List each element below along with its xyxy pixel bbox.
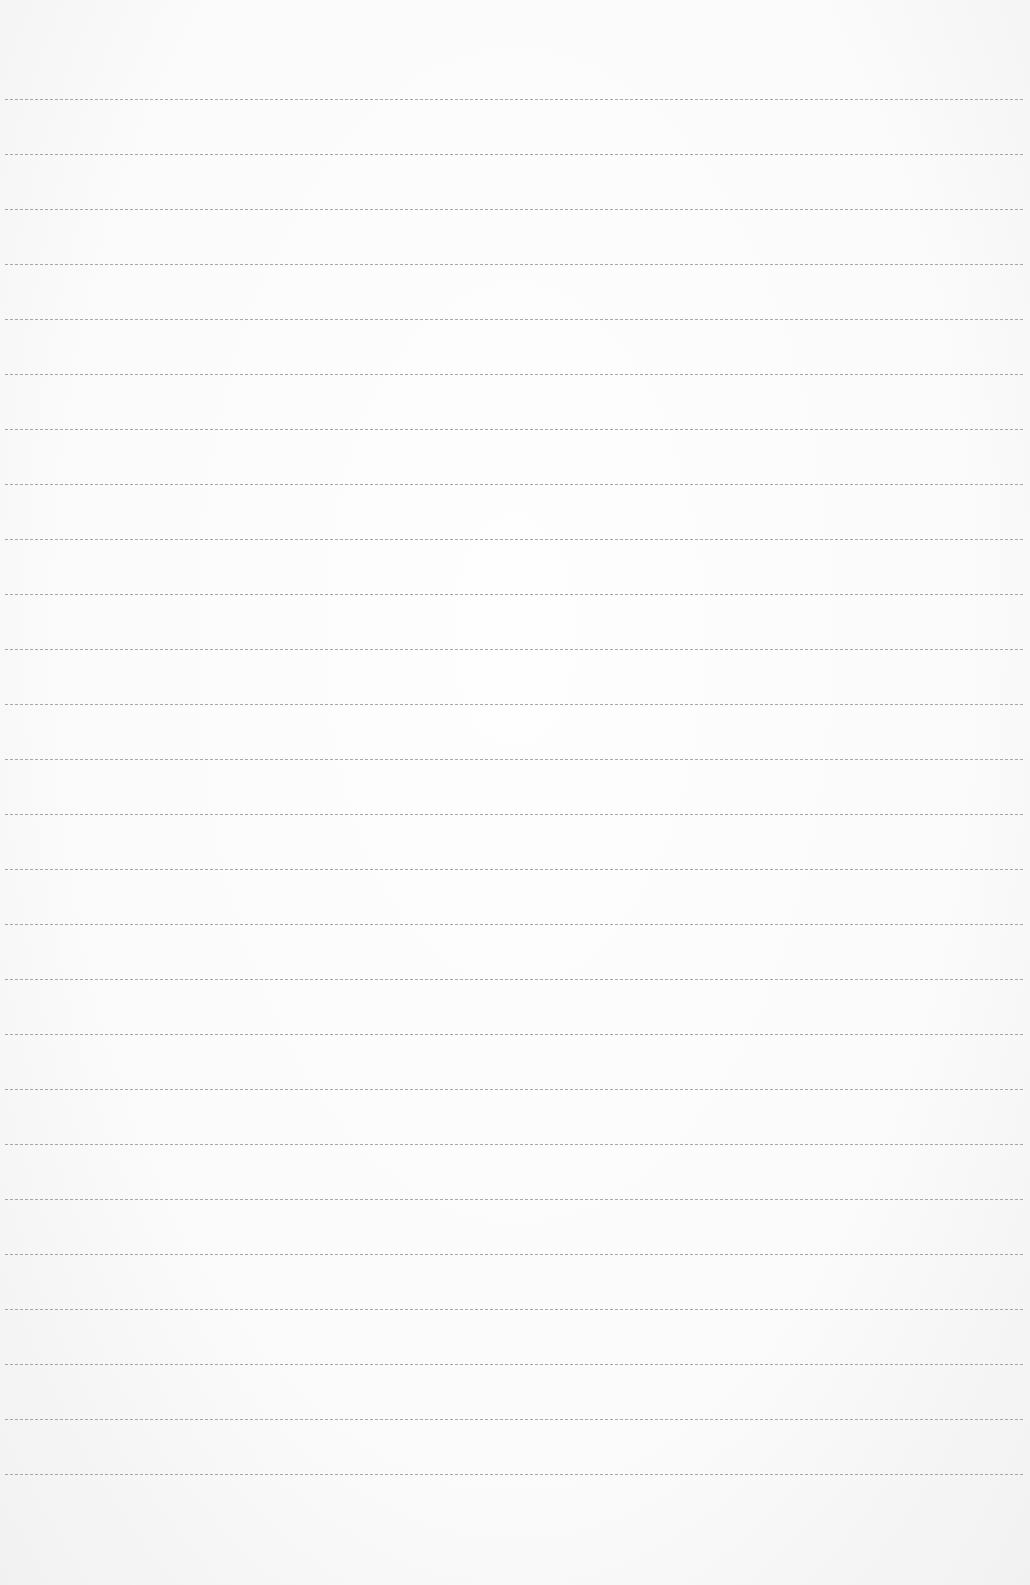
ruled-line bbox=[5, 429, 1023, 430]
ruled-line bbox=[5, 99, 1023, 100]
ruled-line bbox=[5, 264, 1023, 265]
ruled-line bbox=[5, 1089, 1023, 1090]
ruled-line bbox=[5, 1034, 1023, 1035]
ruled-line bbox=[5, 704, 1023, 705]
lined-paper-sheet bbox=[0, 0, 1030, 1585]
ruled-line bbox=[5, 1309, 1023, 1310]
ruled-line bbox=[5, 539, 1023, 540]
ruled-line bbox=[5, 1474, 1023, 1475]
ruled-line bbox=[5, 979, 1023, 980]
ruled-line bbox=[5, 924, 1023, 925]
ruled-line bbox=[5, 1144, 1023, 1145]
ruled-line bbox=[5, 814, 1023, 815]
ruled-line bbox=[5, 1419, 1023, 1420]
ruled-line bbox=[5, 594, 1023, 595]
ruled-line bbox=[5, 484, 1023, 485]
ruled-line bbox=[5, 209, 1023, 210]
ruled-line bbox=[5, 869, 1023, 870]
ruled-line bbox=[5, 1254, 1023, 1255]
ruled-line bbox=[5, 374, 1023, 375]
ruled-line bbox=[5, 649, 1023, 650]
ruled-line bbox=[5, 319, 1023, 320]
ruled-line bbox=[5, 154, 1023, 155]
ruled-line bbox=[5, 1364, 1023, 1365]
ruled-line bbox=[5, 1199, 1023, 1200]
ruled-line bbox=[5, 759, 1023, 760]
